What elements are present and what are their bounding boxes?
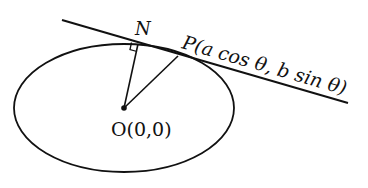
tangent-line [62, 20, 348, 103]
label-O: O(0,0) [111, 118, 172, 140]
ellipse-diagram: N O(0,0) P(a cos θ, b sin θ) [0, 0, 368, 188]
segment-ON [124, 44, 138, 108]
segment-OP [124, 56, 178, 108]
center-point-O [121, 105, 127, 111]
label-N: N [134, 18, 152, 39]
